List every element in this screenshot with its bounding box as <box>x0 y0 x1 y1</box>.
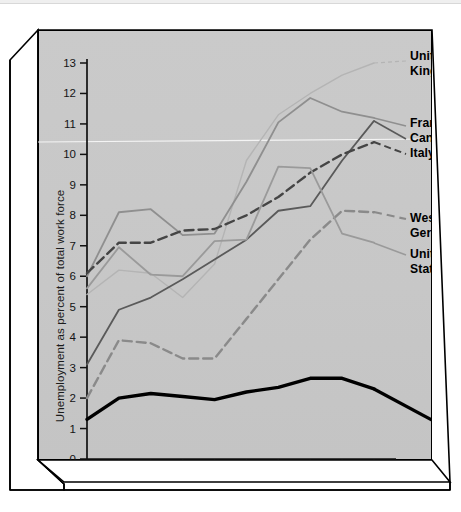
series-leader-line <box>374 121 406 139</box>
series-label-line: United <box>410 247 432 261</box>
series-label-united-kingdom: UnitedKingdom <box>410 49 432 78</box>
y-tick-label: 1 <box>70 423 76 435</box>
series-leader-line <box>374 212 406 219</box>
series-leader-line <box>374 142 406 154</box>
series-label-line: Italy <box>410 146 432 160</box>
y-tick-label: 4 <box>70 331 77 343</box>
series-label-line: France <box>410 116 432 130</box>
y-tick-label: 9 <box>70 179 76 191</box>
y-tick-label: 5 <box>70 301 76 313</box>
y-axis-title-holder: Unemployment as percent of total work fo… <box>34 120 54 360</box>
line-chart: 0123456789101112131976197719781979198019… <box>38 30 432 460</box>
series-leader-line <box>374 61 406 63</box>
series-label-france: France <box>410 116 432 130</box>
series-leader-line <box>374 243 406 255</box>
series-label-line: West <box>410 211 432 225</box>
series-label-west-germany: WestGermany <box>410 211 432 240</box>
series-label-line: States <box>410 262 432 276</box>
y-tick-label: 0 <box>70 453 76 460</box>
series-line-west-germany <box>87 211 374 398</box>
series-line-japan <box>87 378 374 419</box>
series-line-united-states <box>87 167 374 289</box>
series-label-line: Canada <box>410 131 432 145</box>
y-tick-label: 12 <box>63 87 76 99</box>
y-tick-label: 6 <box>70 270 76 282</box>
y-tick-label: 3 <box>70 362 76 374</box>
series-label-united-states: UnitedStates <box>410 247 432 276</box>
y-tick-label: 8 <box>70 209 76 221</box>
series-label-italy: Italy <box>410 146 432 160</box>
series-label-line: Kingdom <box>410 64 432 78</box>
y-tick-label: 2 <box>70 392 76 404</box>
series-line-united-kingdom <box>87 63 374 298</box>
y-axis-title: Unemployment as percent of total work fo… <box>54 176 66 436</box>
y-tick-label: 10 <box>63 148 76 160</box>
chart-page: 0123456789101112131976197719781979198019… <box>0 0 461 512</box>
y-tick-label: 7 <box>70 240 76 252</box>
y-tick-label: 13 <box>63 57 76 69</box>
y-tick-label: 11 <box>64 118 76 130</box>
page-top-rule <box>0 0 461 4</box>
series-leader-line <box>374 389 432 420</box>
series-leader-line <box>374 118 406 126</box>
series-label-line: United <box>410 49 432 63</box>
series-label-line: Germany <box>410 226 432 240</box>
chart-3d-box: 0123456789101112131976197719781979198019… <box>8 14 453 492</box>
series-label-canada: Canada <box>410 131 432 145</box>
